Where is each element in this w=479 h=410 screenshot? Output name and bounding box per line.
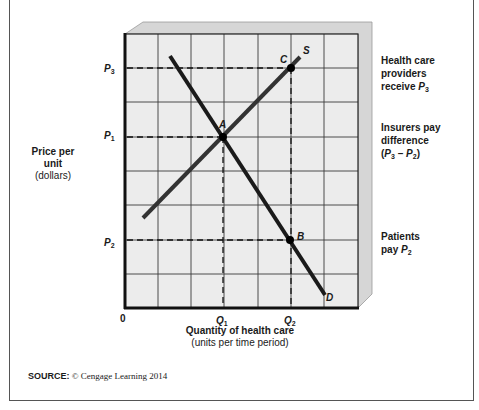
origin-label: 0 — [120, 312, 126, 325]
point-a-label: A — [219, 118, 226, 131]
p2-tick-label: P2 — [104, 236, 115, 252]
x-axis-title: Quantity of health care (units per time … — [165, 325, 315, 349]
point-b-marker — [286, 236, 294, 244]
supply-curve-label: S — [303, 44, 310, 57]
point-a-marker — [219, 133, 227, 141]
annotation-insurers: Insurers pay difference (P3 – P2) — [381, 121, 440, 163]
point-b-label: B — [297, 230, 304, 243]
demand-curve-label: D — [326, 291, 333, 304]
p3-tick-label: P3 — [104, 62, 115, 78]
p1-tick-label: P1 — [104, 129, 115, 145]
point-c-marker — [287, 64, 295, 72]
annotation-providers: Health care providers receive P3 — [381, 54, 435, 96]
source-note: SOURCE: © Cengage Learning 2014 — [28, 371, 167, 381]
point-c-label: C — [280, 53, 287, 66]
y-axis-title: Price per unit (dollars) — [18, 146, 88, 182]
annotation-patients: Patients pay P2 — [381, 230, 420, 259]
